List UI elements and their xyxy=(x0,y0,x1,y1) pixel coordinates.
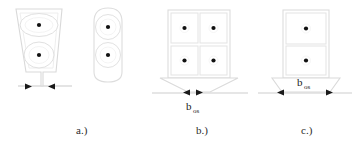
dimension-label-b: b xyxy=(186,100,192,112)
dimension-arrow-a-right xyxy=(48,84,55,90)
panel-c-group: b os xyxy=(258,10,352,96)
dimension-label-c: b xyxy=(297,76,303,88)
dimension-arrow-a-left xyxy=(25,84,32,90)
inclusion-center-dot-a-lower xyxy=(37,53,41,57)
inclusion-center-dot-c-upper xyxy=(304,26,308,30)
figure-panel: b os b os a.) xyxy=(0,0,358,144)
inclusion-center-dot-a2-lower xyxy=(106,53,110,57)
caption-b: b.) xyxy=(196,124,208,137)
panel-a2-group xyxy=(94,8,122,82)
inclusion-center-dot-c-lower xyxy=(304,58,308,62)
inclusion-center-dot-b-top-right xyxy=(211,26,215,30)
dimension-subscript-c: os xyxy=(304,83,311,91)
inclusion-center-dot-a-upper xyxy=(37,23,41,27)
inclusion-center-dot-b-top-left xyxy=(182,26,186,30)
dimension-subscript-b: os xyxy=(193,107,200,115)
inclusion-center-dot-b-bottom-left xyxy=(182,58,186,62)
panel-a-group xyxy=(16,9,72,90)
caption-a: a.) xyxy=(76,124,88,137)
inclusion-center-dot-a2-upper xyxy=(106,25,110,29)
support-trapezoid-b xyxy=(160,78,238,92)
figure-canvas: b os b os a.) xyxy=(0,0,358,144)
inclusion-center-dot-b-bottom-right xyxy=(211,58,215,62)
panel-b-group: b os xyxy=(152,10,248,115)
caption-c: c.) xyxy=(301,124,313,137)
